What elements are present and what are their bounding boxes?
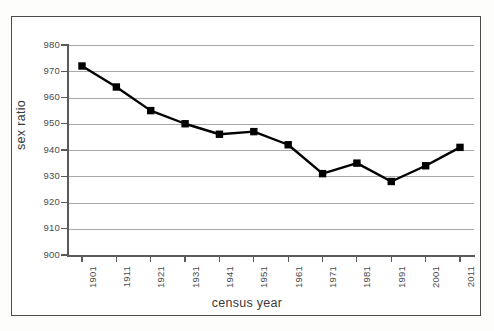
x-tick-label: 2011 xyxy=(465,266,476,287)
y-tick-label-wrap: 930 xyxy=(20,171,60,181)
y-tick-label-wrap: 940 xyxy=(20,145,60,155)
x-tick-1991 xyxy=(391,256,392,262)
y-tick-label: 960 xyxy=(24,92,60,102)
y-tick-label: 900 xyxy=(24,250,60,260)
x-tick-2001 xyxy=(425,256,426,262)
y-tick-label-wrap: 980 xyxy=(20,40,60,50)
y-tick-label: 940 xyxy=(24,145,60,155)
x-tick-label: 1981 xyxy=(361,266,372,288)
x-tick-1931 xyxy=(184,256,185,262)
y-tick-label: 910 xyxy=(24,223,60,233)
y-tick-label: 970 xyxy=(24,66,60,76)
gridline-930 xyxy=(68,176,474,177)
x-tick-label: 1921 xyxy=(155,266,166,288)
x-tick-1951 xyxy=(253,256,254,262)
gridline-980 xyxy=(68,45,474,46)
x-tick-1901 xyxy=(81,256,82,262)
x-axis-line xyxy=(67,255,475,257)
chart-figure: sex ratio 900910920930940950960970980 19… xyxy=(0,0,494,331)
y-tick-label: 930 xyxy=(24,171,60,181)
y-axis-line xyxy=(67,44,69,256)
y-tick-label-wrap: 950 xyxy=(20,118,60,128)
x-tick-1971 xyxy=(322,256,323,262)
x-tick-label: 2001 xyxy=(430,266,441,288)
x-tick-label: 1991 xyxy=(396,266,407,288)
gridline-950 xyxy=(68,124,474,125)
x-axis-title: census year xyxy=(0,296,494,310)
y-tick-label-wrap: 920 xyxy=(20,197,60,207)
y-tick-label-wrap: 910 xyxy=(20,223,60,233)
y-tick-label: 950 xyxy=(24,118,60,128)
gridline-910 xyxy=(68,229,474,230)
plot-area xyxy=(68,45,474,255)
x-tick-label: 1931 xyxy=(190,266,201,288)
y-tick-label-wrap: 900 xyxy=(20,250,60,260)
x-tick-label: 1971 xyxy=(327,266,338,288)
x-tick-1961 xyxy=(288,256,289,262)
y-tick-label-wrap: 970 xyxy=(20,66,60,76)
gridline-940 xyxy=(68,150,474,151)
x-tick-label: 1961 xyxy=(293,266,304,288)
x-tick-label: 1901 xyxy=(87,266,98,288)
gridline-970 xyxy=(68,71,474,72)
x-tick-label: 1951 xyxy=(258,266,269,288)
y-tick-label: 980 xyxy=(24,40,60,50)
y-tick-label: 920 xyxy=(24,197,60,207)
x-tick-label: 1941 xyxy=(224,266,235,288)
gridline-960 xyxy=(68,98,474,99)
x-tick-1941 xyxy=(219,256,220,262)
x-tick-1921 xyxy=(150,256,151,262)
x-tick-label: 1911 xyxy=(121,266,132,287)
x-tick-1981 xyxy=(356,256,357,262)
gridline-920 xyxy=(68,203,474,204)
y-tick-label-wrap: 960 xyxy=(20,92,60,102)
x-tick-2011 xyxy=(459,256,460,262)
x-tick-1911 xyxy=(116,256,117,262)
